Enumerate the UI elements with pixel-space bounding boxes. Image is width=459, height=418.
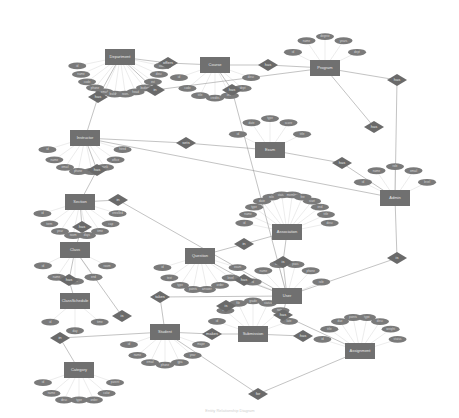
entity-category[interactable]: Category — [64, 362, 94, 378]
attribute-assignment-status[interactable]: status — [389, 336, 407, 343]
attribute-program-name[interactable]: name — [298, 37, 316, 44]
relationship-r7[interactable]: sets — [176, 137, 196, 149]
attribute-assignment-id[interactable]: id — [313, 336, 331, 343]
attribute-category-color[interactable]: color — [98, 390, 116, 397]
attribute-assignment-desc[interactable]: desc — [371, 318, 389, 325]
attribute-class-room[interactable]: room — [98, 262, 116, 269]
attribute-class-id[interactable]: id — [34, 262, 52, 269]
attribute-user-phone[interactable]: phone — [302, 267, 320, 274]
relationship-r14[interactable]: in — [234, 238, 254, 250]
attribute-student-id[interactable]: id — [120, 341, 138, 348]
relationship-r19[interactable]: is — [112, 310, 132, 322]
attribute-student-name[interactable]: name — [128, 352, 146, 359]
attribute-instructor-office[interactable]: office — [107, 156, 125, 163]
entity-question[interactable]: Question — [185, 248, 215, 264]
attribute-exam-type[interactable]: type — [261, 115, 279, 122]
entity-association[interactable]: Association — [272, 224, 302, 240]
attribute-admin-id[interactable]: id — [354, 179, 372, 186]
attribute-instructor-hired[interactable]: hired — [114, 146, 132, 153]
attribute-classschedule-time[interactable]: time — [91, 319, 109, 326]
attribute-course-desc[interactable]: desc — [242, 74, 260, 81]
attribute-association-desc[interactable]: desc — [321, 220, 339, 227]
attribute-student-major[interactable]: major — [192, 341, 210, 348]
attribute-program-degree[interactable]: degree — [316, 33, 334, 40]
attribute-association-end[interactable]: end — [311, 204, 329, 211]
entity-instructor[interactable]: Instructor — [70, 130, 100, 146]
attribute-admin-name[interactable]: name — [368, 167, 386, 174]
attribute-user-role[interactable]: role — [312, 279, 330, 286]
attribute-exam-date[interactable]: date — [243, 119, 261, 126]
attribute-category-id[interactable]: id — [34, 379, 52, 386]
attribute-department-id[interactable]: id — [68, 63, 86, 70]
attribute-admin-level[interactable]: level — [418, 179, 436, 186]
attribute-association-title[interactable]: title — [317, 211, 335, 218]
attribute-question-text[interactable]: text — [160, 274, 178, 281]
relationship-r12[interactable]: has — [72, 221, 92, 233]
entity-classschedule[interactable]: ClassSchedule — [60, 293, 90, 309]
attribute-department-name[interactable]: name — [72, 71, 90, 78]
attribute-section-cap[interactable]: cap — [102, 220, 120, 227]
entity-program[interactable]: Program — [310, 60, 340, 76]
attribute-class-end[interactable]: end — [85, 274, 103, 281]
attribute-question-exam[interactable]: exam — [229, 264, 247, 271]
entity-class[interactable]: Class — [60, 242, 90, 258]
relationship-r8[interactable]: has — [364, 121, 384, 133]
entity-department[interactable]: Department — [105, 49, 135, 65]
entity-admin[interactable]: Admin — [380, 190, 410, 206]
attribute-association-start[interactable]: start — [303, 198, 321, 205]
attribute-instructor-name[interactable]: name — [45, 156, 63, 163]
svg-text:phone: phone — [91, 86, 100, 90]
attribute-exam-id[interactable]: id — [229, 131, 247, 138]
relationship-r23[interactable]: has — [293, 330, 313, 342]
attribute-program-dept[interactable]: dept — [348, 49, 366, 56]
relationship-r6[interactable]: has — [387, 74, 407, 86]
attribute-association-id[interactable]: id — [235, 220, 253, 227]
attribute-classschedule-id[interactable]: id — [41, 319, 59, 326]
relationship-r9[interactable]: has — [332, 157, 352, 169]
attribute-question-order[interactable]: order — [211, 282, 229, 289]
entity-submission[interactable]: Submission — [238, 326, 268, 342]
entity-section[interactable]: Section — [65, 194, 95, 210]
entity-user[interactable]: User — [272, 288, 302, 304]
attribute-student-year[interactable]: year — [184, 352, 202, 359]
relationship-r17[interactable]: is — [387, 252, 407, 264]
relationship-r18[interactable]: takes — [150, 291, 170, 303]
attribute-program-years[interactable]: years — [335, 37, 353, 44]
entity-student[interactable]: Student — [150, 324, 180, 340]
relationship-r21[interactable]: makes — [202, 328, 222, 340]
attribute-exam-title[interactable]: title — [293, 131, 311, 138]
attribute-program-id[interactable]: id — [284, 49, 302, 56]
attribute-admin-role[interactable]: role — [386, 163, 404, 170]
attribute-exam-score[interactable]: score — [280, 119, 298, 126]
attribute-section-id[interactable]: id — [33, 210, 51, 217]
entity-exam[interactable]: Exam — [255, 142, 285, 158]
attribute-admin-email[interactable]: email — [405, 167, 423, 174]
attribute-category-order[interactable]: order — [85, 397, 103, 404]
attribute-assignment-weight[interactable]: weight — [382, 326, 400, 333]
attribute-question-id[interactable]: id — [153, 264, 171, 271]
relationship-r25[interactable]: for — [248, 388, 268, 400]
attribute-instructor-id[interactable]: id — [38, 146, 56, 153]
attribute-category-parent[interactable]: parent — [106, 379, 124, 386]
attribute-association-type[interactable]: type — [245, 204, 263, 211]
attribute-category-name[interactable]: name — [42, 390, 60, 397]
attribute-department-code[interactable]: code — [78, 78, 96, 85]
entity-course[interactable]: Course — [200, 57, 230, 73]
relationship-r3[interactable]: has — [258, 59, 278, 71]
attribute-user-name[interactable]: name — [254, 267, 272, 274]
attribute-section-term[interactable]: term — [40, 220, 58, 227]
attribute-assignment-title[interactable]: title — [320, 326, 338, 333]
svg-text:code: code — [84, 80, 91, 84]
attribute-section-time[interactable]: time — [91, 228, 109, 235]
attribute-association-name[interactable]: name — [239, 211, 257, 218]
attribute-course-code[interactable]: code — [178, 85, 196, 92]
relationship-r24[interactable]: in — [50, 332, 70, 344]
attribute-student-gpa[interactable]: gpa — [171, 359, 189, 366]
entity-assignment[interactable]: Assignment — [345, 343, 375, 359]
attribute-department-desc[interactable]: desc — [150, 71, 168, 78]
attribute-submission-id[interactable]: id — [208, 318, 226, 325]
attribute-classschedule-day[interactable]: day — [66, 327, 84, 334]
attribute-course-id[interactable]: id — [170, 74, 188, 81]
attribute-department-est[interactable]: est — [144, 78, 162, 85]
attribute-section-enrolled[interactable]: enrolled — [109, 210, 127, 217]
